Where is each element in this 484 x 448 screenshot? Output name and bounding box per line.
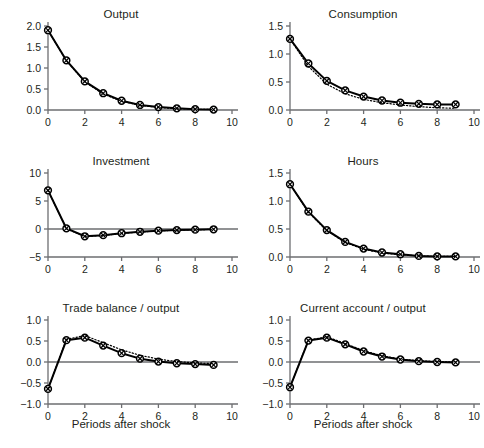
x-axis-tick-label: 6 — [397, 116, 403, 128]
chart-title: Trade balance / output — [0, 302, 242, 314]
x-axis-tick-label: 10 — [226, 263, 238, 275]
chart-title: Output — [0, 8, 242, 20]
x-axis-tick-label: 6 — [397, 263, 403, 275]
y-axis-tick-label: 0.5 — [268, 76, 283, 88]
y-axis-tick-label: −0.5 — [262, 377, 283, 389]
x-axis-tick-label: 4 — [361, 116, 367, 128]
data-line-solid — [48, 30, 214, 109]
y-axis-tick-label: 0.5 — [268, 335, 283, 347]
x-axis-tick-label: 2 — [324, 116, 330, 128]
y-axis-tick-label: 0.0 — [26, 104, 41, 116]
x-axis-tick-label: 4 — [119, 263, 125, 275]
x-axis-tick-label: 0 — [287, 263, 293, 275]
y-axis-tick-label: 5 — [35, 195, 41, 207]
y-axis-tick-label: 1.0 — [268, 48, 283, 60]
data-line-solid — [48, 338, 214, 389]
data-point-marker — [192, 361, 199, 368]
x-axis-tick-label: 4 — [361, 263, 367, 275]
chart-title: Consumption — [242, 8, 484, 20]
y-axis-tick-label: −1.0 — [20, 398, 41, 410]
data-point-marker — [452, 101, 459, 108]
chart-title: Investment — [0, 155, 242, 167]
y-axis-tick-label: 0 — [35, 223, 41, 235]
y-axis-tick-label: 1.0 — [26, 314, 41, 326]
y-axis-tick-label: 2.0 — [26, 20, 41, 32]
y-axis-tick-label: 0.5 — [26, 335, 41, 347]
x-axis-tick-label: 0 — [45, 116, 51, 128]
data-point-marker — [342, 238, 349, 245]
x-axis-tick-label: 8 — [192, 263, 198, 275]
x-axis-tick-label: 2 — [82, 116, 88, 128]
chart-panel-output: 0.00.51.01.52.00246810 Output — [0, 0, 242, 147]
chart-panel-current-account: −1.0−0.50.00.51.00246810 Current account… — [242, 294, 484, 448]
x-axis-tick-label: 8 — [192, 116, 198, 128]
y-axis-tick-label: −1.0 — [262, 398, 283, 410]
y-axis-tick-label: −5 — [29, 251, 41, 263]
chart-panel-hours: 0.00.51.01.50246810 Hours — [242, 147, 484, 294]
y-axis-tick-label: 0.0 — [268, 104, 283, 116]
chart-title: Hours — [242, 155, 484, 167]
chart-title: Current account / output — [242, 302, 484, 314]
y-axis-tick-label: 0.0 — [268, 251, 283, 263]
data-line-dotted — [48, 30, 214, 109]
y-axis-tick-label: 10 — [29, 167, 41, 179]
data-point-marker — [342, 341, 349, 348]
y-axis-tick-label: 1.0 — [268, 195, 283, 207]
x-axis-tick-label: 0 — [45, 263, 51, 275]
x-axis-label: Periods after shock — [242, 418, 484, 430]
x-axis-tick-label: 2 — [82, 263, 88, 275]
data-line-dotted — [290, 184, 456, 256]
y-axis-tick-label: −0.5 — [20, 377, 41, 389]
x-axis-tick-label: 4 — [119, 116, 125, 128]
x-axis-tick-label: 10 — [468, 263, 480, 275]
plot-area: −505100246810 — [0, 147, 242, 294]
chart-panel-trade-balance: −1.0−0.50.00.51.00246810 Trade balance /… — [0, 294, 242, 448]
data-line-solid — [290, 184, 456, 256]
plot-area: 0.00.51.01.50246810 — [242, 0, 484, 147]
data-point-marker — [63, 337, 70, 344]
data-point-marker — [323, 77, 330, 84]
y-axis-tick-label: 1.5 — [26, 41, 41, 53]
data-point-marker — [210, 362, 217, 369]
x-axis-label: Periods after shock — [0, 418, 242, 430]
x-axis-tick-label: 6 — [155, 263, 161, 275]
x-axis-tick-label: 10 — [226, 116, 238, 128]
data-point-marker — [100, 90, 107, 97]
y-axis-tick-label: 0.5 — [26, 83, 41, 95]
data-line-solid — [290, 39, 456, 105]
impulse-response-figure: 0.00.51.01.52.00246810 Output 0.00.51.01… — [0, 0, 484, 448]
chart-panel-consumption: 0.00.51.01.50246810 Consumption — [242, 0, 484, 147]
data-point-marker — [434, 101, 441, 108]
plot-area: 0.00.51.01.50246810 — [242, 147, 484, 294]
plot-area: 0.00.51.01.52.00246810 — [0, 0, 242, 147]
x-axis-tick-label: 10 — [468, 116, 480, 128]
y-axis-tick-label: 1.0 — [26, 62, 41, 74]
y-axis-tick-label: 0.0 — [26, 356, 41, 368]
x-axis-tick-label: 8 — [434, 263, 440, 275]
data-point-marker — [63, 57, 70, 64]
x-axis-tick-label: 2 — [324, 263, 330, 275]
y-axis-tick-label: 1.5 — [268, 20, 283, 32]
data-point-marker — [81, 334, 88, 341]
x-axis-tick-label: 8 — [434, 116, 440, 128]
y-axis-tick-label: 1.5 — [268, 167, 283, 179]
x-axis-tick-label: 6 — [155, 116, 161, 128]
y-axis-tick-label: 1.0 — [268, 314, 283, 326]
y-axis-tick-label: 0.0 — [268, 356, 283, 368]
y-axis-tick-label: 0.5 — [268, 223, 283, 235]
x-axis-tick-label: 0 — [287, 116, 293, 128]
chart-panel-investment: −505100246810 Investment — [0, 147, 242, 294]
